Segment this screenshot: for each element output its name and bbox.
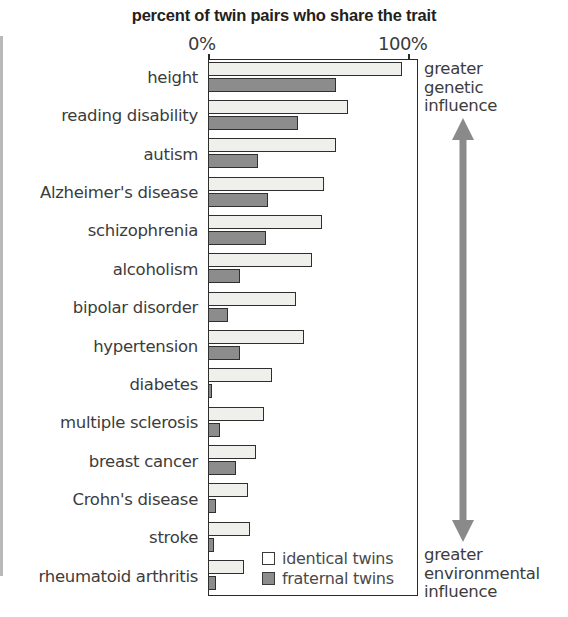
axis-tick-label-100: 100%	[378, 33, 427, 54]
page-title: percent of twin pairs who share the trai…	[0, 6, 568, 25]
bar-group	[208, 212, 418, 250]
bar-fraternal-twins	[208, 384, 212, 398]
bar-identical-twins	[208, 62, 402, 76]
bar-group	[208, 328, 418, 366]
bar-identical-twins	[208, 522, 250, 536]
annotation-top-line-2: genetic	[424, 79, 564, 98]
bar-fraternal-twins	[208, 308, 228, 322]
bar-group	[208, 443, 418, 481]
category-label: Alzheimer's disease	[0, 174, 204, 212]
bar-identical-twins	[208, 292, 296, 306]
bar-identical-twins	[208, 330, 304, 344]
axis-tick-label-0: 0%	[188, 33, 216, 54]
bar-group	[208, 174, 418, 212]
bar-identical-twins	[208, 368, 272, 382]
bar-group	[208, 366, 418, 404]
legend-item: fraternal twins	[262, 568, 394, 588]
bar-group	[208, 59, 418, 97]
category-label: stroke	[0, 519, 204, 557]
bar-identical-twins	[208, 445, 256, 459]
category-label: Crohn's disease	[0, 481, 204, 519]
bar-group	[208, 289, 418, 327]
annotation-bottom-line-3: influence	[424, 583, 568, 602]
double-headed-arrow-icon	[450, 118, 476, 542]
bar-fraternal-twins	[208, 154, 258, 168]
legend-swatch-fraternal	[262, 572, 275, 585]
annotation-bottom-line-1: greater	[424, 546, 568, 565]
bar-fraternal-twins	[208, 576, 216, 590]
annotation-top-line-1: greater	[424, 60, 564, 79]
bar-identical-twins	[208, 177, 324, 191]
category-label: multiple sclerosis	[0, 404, 204, 442]
bar-fraternal-twins	[208, 423, 220, 437]
category-label: hypertension	[0, 328, 204, 366]
category-label: rheumatoid arthritis	[0, 558, 204, 596]
annotation-greater-genetic-influence: greater genetic influence	[424, 60, 564, 116]
bar-fraternal-twins	[208, 269, 240, 283]
bar-group	[208, 404, 418, 442]
legend-label: fraternal twins	[282, 569, 394, 588]
bar-identical-twins	[208, 560, 244, 574]
bar-identical-twins	[208, 483, 248, 497]
bar-fraternal-twins	[208, 346, 240, 360]
category-label: autism	[0, 136, 204, 174]
annotation-bottom-line-2: environmental	[424, 565, 568, 584]
bar-identical-twins	[208, 100, 348, 114]
bar-identical-twins	[208, 253, 312, 267]
bar-fraternal-twins	[208, 78, 336, 92]
bar-fraternal-twins	[208, 231, 266, 245]
category-axis-labels: heightreading disabilityautismAlzheimer'…	[0, 59, 204, 596]
bar-fraternal-twins	[208, 538, 214, 552]
bar-fraternal-twins	[208, 461, 236, 475]
chart-legend: identical twinsfraternal twins	[262, 548, 394, 588]
bar-fraternal-twins	[208, 116, 298, 130]
bar-group	[208, 97, 418, 135]
bar-group	[208, 136, 418, 174]
bars-container	[208, 59, 418, 596]
x-axis-tick-labels: 0% 100%	[0, 33, 568, 55]
bar-fraternal-twins	[208, 499, 216, 513]
category-label: diabetes	[0, 366, 204, 404]
bar-identical-twins	[208, 138, 336, 152]
category-label: height	[0, 59, 204, 97]
bar-group	[208, 251, 418, 289]
legend-label: identical twins	[282, 549, 393, 568]
annotation-greater-environmental-influence: greater environmental influence	[424, 546, 568, 602]
bar-fraternal-twins	[208, 193, 268, 207]
category-label: alcoholism	[0, 251, 204, 289]
annotation-top-line-3: influence	[424, 97, 564, 116]
legend-swatch-identical	[262, 552, 275, 565]
bar-identical-twins	[208, 407, 264, 421]
category-label: bipolar disorder	[0, 289, 204, 327]
category-label: breast cancer	[0, 443, 204, 481]
category-label: schizophrenia	[0, 212, 204, 250]
legend-item: identical twins	[262, 548, 394, 568]
category-label: reading disability	[0, 97, 204, 135]
bar-group	[208, 481, 418, 519]
bar-identical-twins	[208, 215, 322, 229]
